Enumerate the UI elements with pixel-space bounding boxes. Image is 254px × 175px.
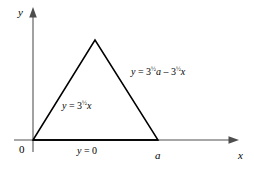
left-eq-operator: = [69,100,75,111]
right-eq-variable-2: x [181,66,185,77]
right-edge-equation-label: y = 3½a – 3½x [131,66,185,77]
left-eq-variable: x [87,100,91,111]
base-eq-operator: = [84,145,90,156]
left-eq-lhs: y [62,100,66,111]
base-eq-rhs: 0 [92,145,97,156]
x-axis-label: x [238,150,243,161]
right-eq-operator: = [138,66,144,77]
triangle-outline [33,40,158,140]
y-axis-label: y [18,7,23,18]
base-eq-lhs: y [77,145,81,156]
triangle-diagram-figure: y x 0 a y = 3½x y = 3½a – 3½x y = 0 [0,0,254,175]
vertex-label-a: a [155,150,161,161]
left-edge-equation-label: y = 3½x [62,100,91,111]
diagram-canvas [0,0,254,175]
origin-label: 0 [19,144,25,155]
right-eq-lhs: y [131,66,135,77]
y-axis-arrowhead-icon [29,7,37,18]
x-axis-arrowhead-icon [229,136,240,144]
right-eq-variable-1: a [156,66,161,77]
right-eq-minus-sign: – [163,66,168,77]
base-equation-label: y = 0 [77,146,97,156]
